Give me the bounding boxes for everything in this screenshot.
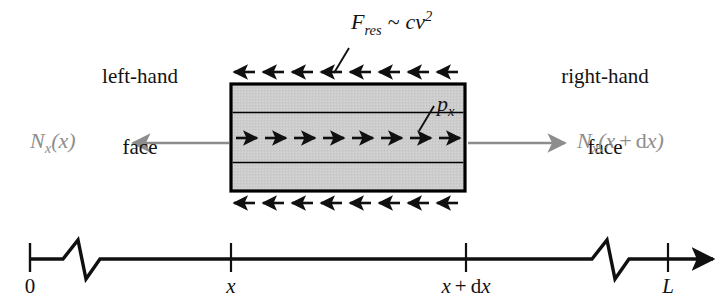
resistive-force-coefficient: c: [406, 9, 416, 34]
coordinate-axis: [30, 240, 713, 279]
axis-tick-label-x-plus-dx-dvar: x: [481, 274, 490, 298]
resistive-force-relation: ~: [382, 9, 406, 34]
axis-line-with-breaks: [30, 240, 713, 279]
flux-right-variable: x: [605, 128, 615, 153]
resistive-force-leader-line: [334, 48, 349, 73]
axis-tick-label-x-plus-dx-d: d: [471, 274, 482, 298]
flux-left-argument: (x): [51, 128, 75, 153]
axis-tick-label-x-plus-dx-var: x: [442, 274, 451, 298]
flux-right-plus: +: [615, 128, 635, 153]
momentum-density-label: px: [437, 92, 454, 120]
axis-tick-label-length: L: [662, 275, 674, 299]
axis-tick-label-x-plus-dx: x+dx: [442, 275, 491, 299]
right-face-label-line1: right-hand: [561, 65, 648, 89]
flux-right-symbol: N: [577, 128, 592, 153]
physics-diagram: left-hand face right-hand face Fres~cv2 …: [0, 0, 727, 303]
momentum-density-subscript: x: [448, 103, 454, 119]
left-face-label-line1: left-hand: [102, 65, 178, 89]
right-face-label: right-hand face: [561, 18, 648, 206]
resistive-force-velocity: v: [415, 9, 425, 34]
resistive-force-exponent: 2: [425, 8, 432, 24]
left-face-label: left-hand face: [102, 18, 178, 206]
flux-right-paren-close: ): [656, 128, 663, 153]
flux-right-label: Nx(x+dx): [577, 129, 664, 157]
flux-right-differential: d: [636, 128, 647, 153]
left-face-label-line2: face: [102, 136, 178, 160]
flux-right-differential-variable: x: [647, 128, 657, 153]
momentum-density-symbol: p: [437, 91, 448, 116]
axis-tick-label-x: x: [226, 275, 235, 299]
resistive-force-symbol: F: [351, 9, 364, 34]
resistive-force-label: Fres~cv2: [351, 8, 432, 38]
axis-tick-label-x-plus-dx-op: +: [451, 274, 471, 298]
axis-tick-label-origin: 0: [25, 275, 36, 299]
flux-left-symbol: N: [30, 128, 45, 153]
flux-left-label: Nx(x): [30, 129, 76, 157]
resistive-force-subscript: res: [364, 22, 381, 38]
